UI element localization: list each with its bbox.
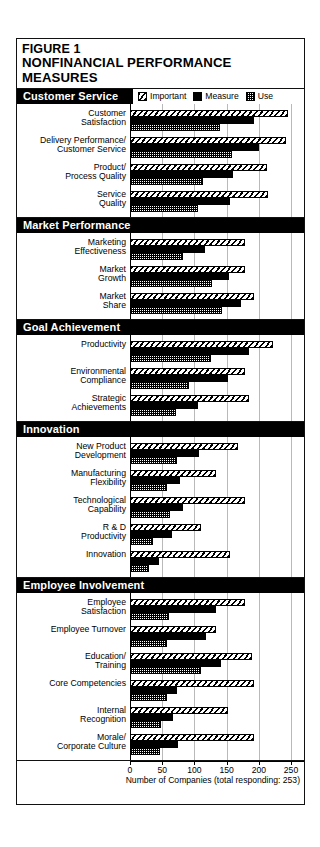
row-label: InternalRecognition (17, 706, 130, 725)
axis-tick-label-100: 100 (187, 765, 201, 775)
section-body-employee-involvement: EmployeeSatisfactionEmployee TurnoverEdu… (17, 593, 304, 760)
row-label-line: Employee Turnover (17, 625, 126, 635)
row-label-line: Satisfaction (17, 607, 126, 617)
bar-measure (130, 198, 230, 205)
bar-important (130, 551, 230, 558)
bar-use (130, 355, 211, 362)
bar-measure (130, 117, 254, 124)
chart-row: EnvironmentalCompliance (17, 367, 304, 389)
bar-use (130, 178, 203, 185)
chart-row: MarketingEffectiveness (17, 238, 304, 260)
chart-row: Core Competencies (17, 679, 304, 701)
bar-use (130, 640, 167, 647)
bar-use (130, 409, 176, 416)
bar-use (130, 748, 160, 755)
bar-measure (130, 300, 241, 307)
row-label-line: Compliance (17, 376, 126, 386)
chart-row: MarketGrowth (17, 265, 304, 287)
section-title: Market Performance (17, 219, 131, 231)
bar-use (130, 538, 153, 545)
section-header-customer-service: Customer ServiceImportantMeasureUse (17, 89, 304, 104)
bar-measure (130, 273, 229, 280)
row-bars (130, 733, 304, 755)
row-label: Education/Training (17, 652, 130, 671)
section-header-market-performance: Market Performance (17, 218, 304, 233)
axis-tick-label-50: 50 (157, 765, 167, 775)
chart-row: ManufacturingFlexibility (17, 469, 304, 491)
row-label-line: Training (17, 661, 126, 671)
row-label: Innovation (17, 550, 130, 560)
section-title: Employee Involvement (17, 579, 144, 591)
bar-use (130, 307, 222, 314)
row-spacer (17, 572, 304, 577)
chart-row: StrategicAchievements (17, 394, 304, 416)
row-label: Product/Process Quality (17, 163, 130, 182)
row-spacer (17, 314, 304, 319)
chart-row: EmployeeSatisfaction (17, 598, 304, 620)
figure-title-block: FIGURE 1 NONFINANCIAL PERFORMANCE MEASUR… (17, 39, 304, 89)
row-label-line: Customer Service (17, 145, 126, 155)
row-label: Productivity (17, 340, 130, 350)
bar-measure (130, 246, 205, 253)
bar-important (130, 266, 245, 273)
section-title: Goal Achievement (17, 321, 120, 333)
row-label: Employee Turnover (17, 625, 130, 635)
bar-use (130, 694, 167, 701)
row-bars (130, 469, 304, 491)
bar-important (130, 191, 268, 198)
row-bars (130, 238, 304, 260)
bar-use (130, 382, 189, 389)
bar-measure (130, 660, 221, 667)
row-label-line: Core Competencies (17, 679, 126, 689)
row-spacer (17, 416, 304, 421)
row-label: ServiceQuality (17, 190, 130, 209)
bar-measure (130, 504, 183, 511)
chart-row: R & DProductivity (17, 523, 304, 545)
chart-legend: ImportantMeasureUse (133, 89, 304, 104)
section-title: Customer Service (17, 90, 118, 102)
x-axis: 050100150200250 Number of Companies (tot… (17, 761, 304, 787)
bar-use (130, 457, 177, 464)
chart-row: MarketShare (17, 292, 304, 314)
bar-use (130, 205, 198, 212)
section-title: Innovation (17, 423, 80, 435)
row-label: StrategicAchievements (17, 394, 130, 413)
bar-important (130, 680, 254, 687)
row-label: MarketingEffectiveness (17, 238, 130, 257)
row-label: Core Competencies (17, 679, 130, 689)
chart-body: Customer ServiceImportantMeasureUseCusto… (17, 89, 304, 761)
axis-line (130, 761, 304, 762)
bar-important (130, 293, 254, 300)
chart-row: Product/Process Quality (17, 163, 304, 185)
chart-row: Morale/Corporate Culture (17, 733, 304, 755)
axis-tick-label-250: 250 (284, 765, 298, 775)
bar-use (130, 124, 220, 131)
row-spacer (17, 212, 304, 217)
chart-row: Employee Turnover (17, 625, 304, 647)
bar-use (130, 721, 161, 728)
bar-measure (130, 606, 216, 613)
axis-caption: Number of Companies (total responding: 2… (17, 775, 300, 785)
row-label-line: Process Quality (17, 172, 126, 182)
row-label: MarketGrowth (17, 265, 130, 284)
bar-use (130, 667, 201, 674)
chart-row: TechnologicalCapability (17, 496, 304, 518)
row-label: ManufacturingFlexibility (17, 469, 130, 488)
bar-use (130, 511, 170, 518)
row-label: CustomerSatisfaction (17, 109, 130, 128)
section-body-goal-achievement: ProductivityEnvironmentalComplianceStrat… (17, 335, 304, 421)
bar-important (130, 524, 201, 531)
chart-row: New ProductDevelopment (17, 442, 304, 464)
figure-title: NONFINANCIAL PERFORMANCE MEASURES (22, 56, 304, 86)
row-label-line: Satisfaction (17, 118, 126, 128)
chart-row: InternalRecognition (17, 706, 304, 728)
row-label: Morale/Corporate Culture (17, 733, 130, 752)
section-body-innovation: New ProductDevelopmentManufacturingFlexi… (17, 437, 304, 577)
row-bars (130, 625, 304, 647)
axis-tick-label-0: 0 (128, 765, 133, 775)
row-bars (130, 550, 304, 572)
axis-tick-label-150: 150 (219, 765, 233, 775)
row-label-line: Quality (17, 199, 126, 209)
row-bars (130, 190, 304, 212)
row-label: EmployeeSatisfaction (17, 598, 130, 617)
